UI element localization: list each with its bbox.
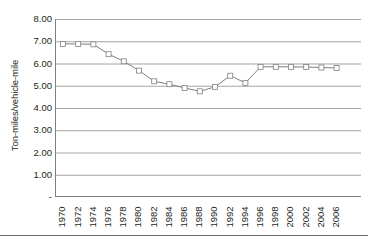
plot-area (55, 19, 361, 197)
data-point-marker (334, 65, 339, 70)
data-point-marker (106, 52, 111, 57)
x-axis-tick-label-text: 1994 (239, 206, 249, 227)
x-axis-tick-label: 1978 (117, 199, 129, 239)
data-point-marker (258, 64, 263, 69)
x-axis-tick-label: 1990 (208, 199, 220, 239)
x-axis-tick-label: 1988 (193, 199, 205, 239)
chart-figure: Ton-miles/vehicle-mile 8.007.006.005.004… (0, 0, 368, 242)
x-axis-tick-label-text: 1998 (270, 206, 280, 227)
data-point-marker (243, 80, 248, 85)
x-axis-tick-label-text: 1980 (133, 206, 143, 227)
x-axis-tick-label: 1974 (86, 199, 98, 239)
x-axis-tick-label-text: 1984 (163, 206, 173, 227)
x-axis-tick-label-text: 1978 (118, 206, 128, 227)
y-axis-title-text: Ton-miles/vehicle-mile (10, 59, 21, 150)
data-point-marker (182, 85, 187, 90)
y-axis-tick-label: 6.00 (24, 59, 52, 69)
x-axis-tick-label: 2006 (330, 199, 342, 239)
data-point-marker (319, 65, 324, 70)
x-axis-tick-label: 2000 (284, 199, 296, 239)
x-axis-tick-label: 1970 (56, 199, 68, 239)
x-axis-tick-label: 2002 (299, 199, 311, 239)
y-axis-tick-label: 5.00 (24, 81, 52, 91)
data-point-marker (289, 64, 294, 69)
data-point-marker (304, 65, 309, 70)
x-axis-tick-label-text: 1992 (224, 206, 234, 227)
data-point-marker (228, 73, 233, 78)
y-axis-tick-label: 3.00 (24, 126, 52, 136)
x-axis-tick-label: 1976 (102, 199, 114, 239)
x-axis-tick-label-text: 1970 (57, 206, 67, 227)
data-point-marker (197, 89, 202, 94)
x-axis-tick-label: 1994 (238, 199, 250, 239)
data-point-marker (273, 64, 278, 69)
data-point-marker (152, 79, 157, 84)
x-axis-tick-label: 1998 (269, 199, 281, 239)
x-axis-tick-label-text: 1974 (87, 206, 97, 227)
x-axis-tick-label: 1982 (147, 199, 159, 239)
footer-divider (0, 235, 368, 236)
data-point-marker (61, 41, 66, 46)
x-axis-tick-label: 1972 (71, 199, 83, 239)
data-point-marker (213, 84, 218, 89)
x-axis-tick-label-text: 1990 (209, 206, 219, 227)
y-axis-tick-labels: 8.007.006.005.004.003.002.001.00- (20, 0, 52, 242)
x-axis-tick-label: 1980 (132, 199, 144, 239)
x-axis-tick-label: 2004 (314, 199, 326, 239)
x-axis-tick-label-text: 1972 (72, 206, 82, 227)
y-axis-tick-label: 8.00 (24, 14, 52, 24)
data-point-marker (76, 41, 81, 46)
y-axis-tick-label: 7.00 (24, 37, 52, 47)
x-axis-tick-label-text: 1982 (148, 206, 158, 227)
y-axis-tick-label: 2.00 (24, 148, 52, 158)
x-axis-tick-label-text: 2006 (331, 206, 341, 227)
x-axis-tick-label-text: 1986 (179, 206, 189, 227)
data-point-marker (91, 42, 96, 47)
data-line (63, 44, 337, 91)
x-axis-tick-label-text: 2000 (285, 206, 295, 227)
gridlines (56, 20, 361, 197)
x-axis-tick-label-text: 1976 (103, 206, 113, 227)
series-plot (56, 19, 361, 197)
x-axis-tick-label: 1984 (162, 199, 174, 239)
x-axis-tick-label-text: 2002 (300, 206, 310, 227)
y-axis-tick-label: 4.00 (24, 103, 52, 113)
x-axis-tick-label: 1986 (178, 199, 190, 239)
data-point-marker (121, 59, 126, 64)
data-point-marker (167, 82, 172, 87)
x-axis-tick-label: 1996 (254, 199, 266, 239)
x-axis-tick-label-text: 1988 (194, 206, 204, 227)
y-axis-tick-label: 1.00 (24, 170, 52, 180)
data-point-marker (137, 68, 142, 73)
x-axis-tick-label-text: 2004 (315, 206, 325, 227)
x-axis-tick-label: 1992 (223, 199, 235, 239)
y-axis-tick-label: - (24, 192, 52, 202)
x-axis-tick-label-text: 1996 (255, 206, 265, 227)
